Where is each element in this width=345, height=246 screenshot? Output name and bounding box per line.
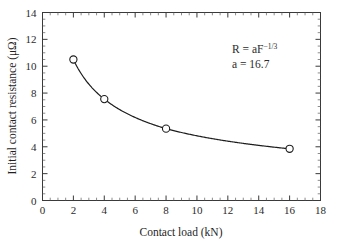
x-tick-label: 2	[71, 204, 77, 216]
x-axis-title: Contact load (kN)	[139, 226, 222, 239]
y-tick-label: 0	[31, 195, 37, 207]
annotation-fit-coefficient: a = 16.7	[232, 58, 270, 70]
y-tick-label: 14	[26, 7, 38, 19]
annotation-equation-exponent: −1/3	[263, 42, 277, 51]
y-tick-label: 4	[31, 141, 37, 153]
x-tick-label: 12	[222, 204, 233, 216]
chart-canvas: 024681012141618 02468101214 Contact load…	[0, 0, 345, 246]
y-axis-title: Initial contact resistance (μΩ)	[6, 37, 19, 174]
x-tick-label: 18	[315, 204, 327, 216]
y-tick-label: 12	[26, 33, 37, 45]
annotation-equation-base: R = aF	[232, 43, 263, 55]
y-tick-label: 8	[31, 87, 37, 99]
x-tick-label: 14	[253, 204, 265, 216]
y-tick-label: 2	[31, 168, 37, 180]
x-tick-label: 4	[102, 204, 108, 216]
x-tick-label: 16	[284, 204, 296, 216]
y-tick-label: 10	[26, 60, 38, 72]
x-tick-label: 6	[132, 204, 138, 216]
data-point-marker	[101, 96, 108, 103]
x-tick-label: 8	[163, 204, 169, 216]
x-tick-label: 0	[40, 204, 46, 216]
data-point-marker	[70, 56, 77, 63]
y-tick-label: 6	[31, 114, 37, 126]
x-tick-label: 10	[191, 204, 203, 216]
data-point-marker	[286, 145, 293, 152]
data-point-marker	[162, 125, 169, 132]
chart-figure: 024681012141618 02468101214 Contact load…	[0, 0, 345, 246]
